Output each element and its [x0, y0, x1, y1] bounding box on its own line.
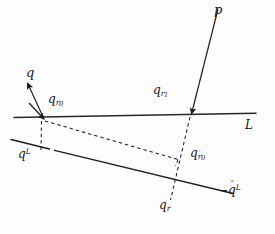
- label-L: L: [245, 119, 253, 131]
- dashed-corner-tail: [176, 160, 179, 167]
- hat-accent-icon: ˆ: [230, 181, 234, 190]
- dashed-vertical-left: [41, 121, 42, 150]
- label-minus-q-hat-L: −ˆqL: [218, 184, 241, 196]
- ray-q-arrow: [28, 83, 44, 118]
- label-q: q: [26, 66, 34, 79]
- ray-p-arrow: [192, 9, 219, 114]
- line-L: [14, 113, 256, 117]
- label-q-r0-base: q: [48, 92, 56, 106]
- geometry-figure: p q qr0 qr1 L qL qˆr0 qr −ˆqL: [0, 0, 275, 234]
- label-q-r-sub: r: [167, 204, 171, 213]
- line-lower-right-segment: [55, 150, 234, 193]
- label-q-superscript-L-base: q: [18, 147, 26, 161]
- label-q-r-base: q: [159, 198, 167, 212]
- dashed-connector-main: [45, 121, 178, 160]
- label-q-superscript-L-sup: L: [26, 147, 31, 156]
- label-minus-q-hat-L-sup: L: [236, 183, 241, 192]
- label-q-rhat-0-sub2: 0: [201, 154, 205, 162]
- label-q-rhat-0: qˆr0: [190, 147, 205, 162]
- label-q-r1: qr1: [153, 84, 168, 99]
- label-minus-q-hat-L-group: ˆq: [228, 184, 236, 196]
- label-q-r1-sub2: 1: [164, 91, 168, 99]
- label-q-rhat-0-base: q: [190, 146, 198, 160]
- label-p: p: [214, 3, 222, 16]
- label-q-r1-base: q: [153, 83, 161, 97]
- hat-accent-icon: ˆ: [198, 151, 201, 157]
- label-q-r: qr: [159, 199, 170, 213]
- label-q-r0-sub2: 0: [59, 100, 63, 108]
- dashed-vertical-right: [171, 117, 191, 200]
- figure-canvas: [0, 0, 275, 234]
- label-q-superscript-L: qL: [18, 148, 31, 160]
- minus-sign: −: [218, 183, 228, 197]
- label-q-rhat-0-sub-group: ˆr: [198, 153, 202, 161]
- label-q-r0: qr0: [48, 93, 63, 108]
